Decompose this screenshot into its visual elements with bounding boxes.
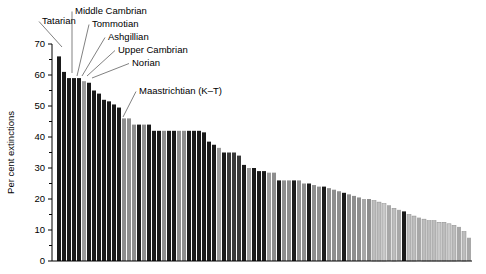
bar (112, 104, 116, 261)
bar (347, 194, 351, 261)
bar (457, 227, 461, 261)
bar (57, 56, 61, 261)
bar (222, 153, 226, 262)
bar (307, 184, 311, 262)
bar (282, 180, 286, 261)
bar (107, 101, 111, 261)
bar (122, 118, 126, 261)
bar (97, 94, 101, 261)
annotation-label: Tatarian (42, 15, 76, 26)
bar (277, 180, 281, 261)
bar (327, 188, 331, 261)
bar (437, 222, 441, 261)
bar (297, 180, 301, 261)
annotation-label: Maastrichtian (K–T) (139, 85, 222, 96)
bar (397, 210, 401, 261)
annotation-leader-line (87, 51, 115, 77)
bar (312, 185, 316, 261)
bar (67, 78, 71, 261)
bar (172, 131, 176, 261)
bar (127, 118, 131, 261)
bar (62, 72, 66, 261)
annotation-leader-line (92, 64, 129, 79)
bar (167, 131, 171, 261)
bar (452, 225, 456, 261)
bar (72, 78, 76, 261)
bar (102, 100, 106, 261)
bar (412, 216, 416, 261)
bar (92, 91, 96, 262)
bar (227, 153, 231, 262)
bar (432, 221, 436, 261)
bar (87, 83, 91, 261)
bar (77, 78, 81, 261)
bar (212, 145, 216, 261)
bar (322, 187, 326, 261)
bar (272, 173, 276, 261)
bar (342, 193, 346, 261)
bar (402, 211, 406, 261)
bar (242, 165, 246, 261)
bar (82, 81, 86, 261)
bar (267, 173, 271, 261)
bar (202, 132, 206, 261)
bar (362, 199, 366, 261)
bar (137, 125, 141, 261)
bar (232, 153, 236, 262)
bar (467, 238, 471, 261)
annotation-leader-line (77, 25, 89, 77)
bar (352, 196, 356, 261)
bar (392, 208, 396, 261)
bar (142, 125, 146, 261)
bar (117, 108, 121, 261)
bar (302, 184, 306, 262)
bar (182, 131, 186, 261)
bar (132, 125, 136, 261)
annotation-label: Ashgillian (108, 31, 149, 42)
bar (187, 131, 191, 261)
bar (287, 180, 291, 261)
y-axis-title: Per cent extinctions (5, 111, 16, 194)
bar (292, 180, 296, 261)
bar (237, 156, 241, 261)
bar (382, 204, 386, 261)
bar (252, 168, 256, 261)
bar (377, 202, 381, 261)
annotation-leader-line (123, 92, 136, 118)
annotation-label: Middle Cambrian (75, 5, 147, 16)
annotations-group: TatarianMiddle CambrianTommotianAshgilli… (39, 5, 222, 117)
bar (217, 148, 221, 261)
bar (247, 168, 251, 261)
bar (427, 221, 431, 261)
y-axis-tick-label: 20 (34, 193, 45, 204)
y-axis-tick-label: 10 (34, 224, 45, 235)
annotation-label: Tommotian (92, 18, 138, 29)
bars-group (57, 56, 471, 261)
bar (197, 131, 201, 261)
y-axis-tick-label: 30 (34, 162, 45, 173)
annotation-label: Upper Cambrian (118, 44, 188, 55)
y-axis-tick-label: 40 (34, 131, 45, 142)
y-axis-tick-label: 0 (40, 255, 45, 266)
bar (262, 171, 266, 261)
bar (422, 219, 426, 261)
bar (372, 201, 376, 261)
bar (317, 187, 321, 261)
bar (417, 218, 421, 261)
bar (157, 131, 161, 261)
bar (337, 191, 341, 261)
chart-figure: 010203040506070Per cent extinctions Tata… (0, 0, 486, 274)
bar (387, 205, 391, 261)
bar (177, 131, 181, 261)
y-axis-tick-label: 50 (34, 100, 45, 111)
y-axis-tick-label: 60 (34, 69, 45, 80)
bar (207, 142, 211, 261)
extinction-bar-chart: 010203040506070Per cent extinctions Tata… (0, 0, 486, 274)
bar (257, 171, 261, 261)
bar (447, 224, 451, 261)
bar (357, 197, 361, 261)
bar (442, 222, 446, 261)
bar (192, 131, 196, 261)
bar (367, 199, 371, 261)
bar (407, 215, 411, 262)
